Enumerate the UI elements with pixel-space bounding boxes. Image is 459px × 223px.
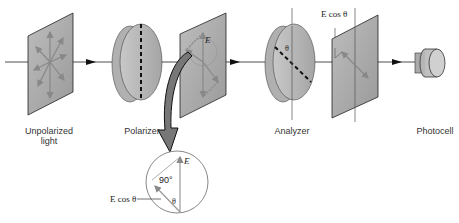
polarized-panel	[180, 13, 226, 118]
polarization-diagram	[0, 0, 459, 223]
label-inset-E: E	[184, 156, 190, 166]
beam-arrow-icon	[230, 59, 240, 65]
label-inset-e-cos-theta: E cos θ	[110, 194, 136, 204]
label-e-cos-theta-top: E cos θ	[321, 9, 347, 19]
beam-arrow-icon	[86, 59, 96, 65]
beam-arrow-icon	[392, 59, 402, 65]
analyzer-disc	[265, 8, 315, 120]
label-theta-analyzer: θ	[285, 44, 289, 53]
polarizer-disc	[112, 24, 162, 102]
photocell	[415, 49, 445, 77]
label-inset-theta: θ	[172, 197, 176, 206]
label-unpolarized-line1: Unpolarized	[14, 126, 84, 136]
unpolarized-panel	[28, 13, 73, 115]
label-photocell: Photocell	[410, 126, 459, 136]
label-inset-90-degrees: 90°	[159, 175, 173, 185]
label-unpolarized-light: Unpolarized light	[14, 126, 84, 146]
label-unpolarized-line2: light	[14, 136, 84, 146]
label-E: E	[205, 35, 211, 45]
label-analyzer: Analyzer	[262, 126, 322, 136]
analyzed-panel	[332, 8, 378, 122]
label-polarizer: Polarizer	[112, 126, 172, 136]
